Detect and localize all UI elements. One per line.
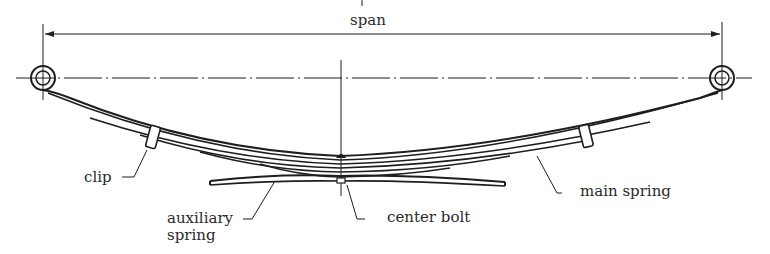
center-bolt-label: center bolt xyxy=(387,208,470,226)
center-bolt-leader xyxy=(347,185,365,219)
clip-left xyxy=(145,125,160,149)
clip-right xyxy=(578,124,593,148)
clip-leader xyxy=(122,150,147,177)
auxiliary-spring-label-line1: auxiliary xyxy=(167,209,234,227)
main-spring-label: main spring xyxy=(580,182,671,200)
span-label: span xyxy=(350,11,386,29)
arrow-right-icon xyxy=(711,31,720,37)
auxiliary-spring-label-line2: spring xyxy=(167,226,216,244)
main-spring-leader xyxy=(537,156,562,193)
arrow-left-icon xyxy=(45,31,54,37)
auxiliary-spring-leader xyxy=(243,181,275,219)
leaf-spring-diagram: span clip xyxy=(0,0,770,254)
clip-label: clip xyxy=(84,168,112,186)
main-spring-leaves xyxy=(43,90,722,177)
span-dimension: span xyxy=(43,0,722,100)
